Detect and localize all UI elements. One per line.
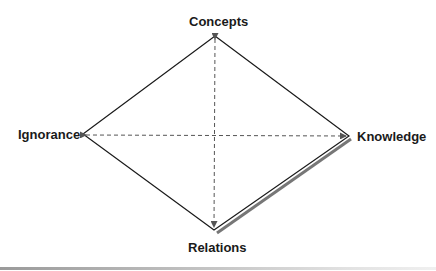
diamond-outline bbox=[83, 36, 349, 230]
diamond-diagram: Concepts Ignorance Knowledge Relations bbox=[0, 0, 436, 271]
node-label-knowledge: Knowledge bbox=[357, 129, 426, 144]
node-label-ignorance: Ignorance bbox=[18, 127, 80, 142]
bottom-divider bbox=[0, 267, 436, 270]
dashed-axis-vertical bbox=[214, 39, 215, 227]
node-label-relations: Relations bbox=[188, 240, 247, 255]
node-label-concepts: Concepts bbox=[189, 14, 248, 29]
dashed-axis-horizontal bbox=[86, 135, 346, 136]
edge-knowledge-relations-shadow bbox=[217, 139, 351, 233]
